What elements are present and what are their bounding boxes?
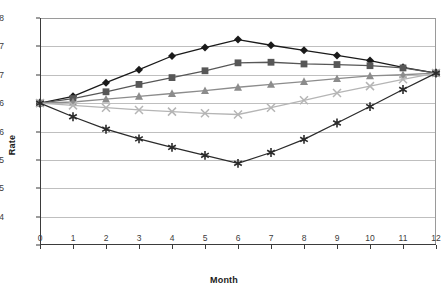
diamond-marker bbox=[201, 44, 209, 52]
y-tick-label: 7 bbox=[0, 70, 4, 80]
square-marker bbox=[334, 61, 341, 68]
x-tick-mark bbox=[172, 245, 173, 249]
y-tick-label: 6 bbox=[0, 127, 4, 137]
asterisk-marker bbox=[102, 125, 110, 134]
diamond-marker bbox=[168, 52, 176, 60]
x-tick-label: 8 bbox=[292, 233, 316, 243]
square-marker bbox=[400, 65, 407, 72]
diamond-marker bbox=[333, 51, 341, 59]
asterisk-marker bbox=[399, 85, 407, 94]
x-tick-label: 7 bbox=[259, 233, 283, 243]
y-tick-label: 5 bbox=[0, 155, 4, 165]
x-tick-mark bbox=[139, 245, 140, 249]
y-tick-label: 6 bbox=[0, 98, 4, 108]
x-tick-mark bbox=[106, 245, 107, 249]
x-tick-mark bbox=[337, 245, 338, 249]
x-tick-label: 12 bbox=[424, 233, 448, 243]
x-tick-mark bbox=[370, 245, 371, 249]
x-tick-mark bbox=[304, 245, 305, 249]
diamond-marker bbox=[102, 79, 110, 87]
y-tick-label: 7 bbox=[0, 41, 4, 51]
x-tick-label: 3 bbox=[127, 233, 151, 243]
square-marker bbox=[235, 59, 242, 66]
asterisk-marker bbox=[69, 112, 77, 121]
square-marker bbox=[169, 74, 176, 81]
x-tick-label: 1 bbox=[61, 233, 85, 243]
asterisk-marker bbox=[300, 135, 308, 144]
square-marker bbox=[202, 67, 209, 74]
x-tick-mark bbox=[73, 245, 74, 249]
x-tick-label: 10 bbox=[358, 233, 382, 243]
y-tick-label: 5 bbox=[0, 183, 4, 193]
y-axis-title: Rate bbox=[7, 134, 17, 154]
series-triangle bbox=[36, 69, 440, 107]
x-tick-label: 2 bbox=[94, 233, 118, 243]
asterisk-marker bbox=[366, 102, 374, 111]
asterisk-marker bbox=[135, 134, 143, 143]
x-tick-mark bbox=[436, 245, 437, 249]
x-axis-title: Month bbox=[0, 275, 448, 285]
y-tick-label: 4 bbox=[0, 212, 4, 222]
x-tick-label: 11 bbox=[391, 233, 415, 243]
diamond-marker bbox=[300, 46, 308, 54]
square-marker bbox=[301, 61, 308, 68]
x-tick-mark bbox=[205, 245, 206, 249]
series-line bbox=[40, 62, 436, 103]
series-diamond bbox=[36, 36, 440, 108]
x-tick-mark bbox=[271, 245, 272, 249]
square-marker bbox=[268, 59, 275, 66]
asterisk-marker bbox=[333, 119, 341, 128]
series-layer bbox=[40, 18, 436, 245]
diamond-marker bbox=[234, 36, 242, 44]
diamond-marker bbox=[267, 41, 275, 49]
diamond-marker bbox=[135, 66, 143, 74]
x-tick-label: 6 bbox=[226, 233, 250, 243]
x-tick-mark bbox=[403, 245, 404, 249]
x-tick-label: 5 bbox=[193, 233, 217, 243]
plot-area bbox=[40, 18, 436, 245]
square-marker bbox=[367, 62, 374, 69]
x-tick-label: 4 bbox=[160, 233, 184, 243]
x-tick-label: 9 bbox=[325, 233, 349, 243]
y-tick-label: 8 bbox=[0, 13, 4, 23]
x-tick-mark bbox=[238, 245, 239, 249]
asterisk-marker bbox=[267, 148, 275, 157]
line-chart: Rate Month 87766554 0123456789101112 bbox=[0, 0, 448, 289]
square-marker bbox=[103, 88, 110, 95]
x-tick-label: 0 bbox=[28, 233, 52, 243]
x-tick-mark bbox=[40, 245, 41, 249]
square-marker bbox=[136, 81, 143, 88]
